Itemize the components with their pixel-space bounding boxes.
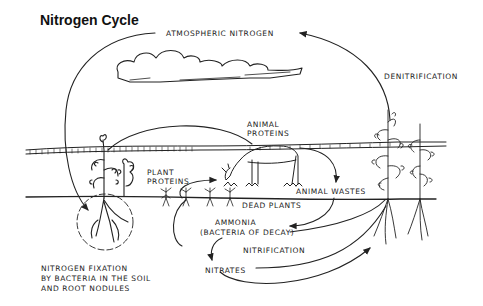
cloud-icon: [117, 51, 302, 83]
label-plant-proteins-line1: PLANT: [147, 168, 174, 177]
label-dead-plants: DEAD PLANTS: [242, 201, 301, 210]
label-plant-proteins-line2: PROTEINS: [147, 177, 189, 186]
label-animal-proteins-line2: PROTEINS: [247, 129, 289, 138]
diagram-artwork: [0, 0, 483, 306]
label-animal-wastes: ANIMAL WASTES: [296, 187, 366, 196]
label-atmospheric-nitrogen: ATMOSPHERIC NITROGEN: [166, 29, 274, 38]
label-nitrification: NITRIFICATION: [243, 246, 305, 255]
nitrogen-cycle-diagram: Nitrogen Cycle: [0, 0, 483, 306]
label-denitrification: DENITRIFICATION: [384, 72, 458, 81]
label-fixation-line3: AND ROOT NODULES: [41, 284, 130, 293]
label-nitrates: NITRATES: [205, 266, 246, 275]
label-fixation-line2: BY BACTERIA IN THE SOIL: [41, 274, 151, 283]
label-ammonia-line2: (BACTERIA OF DECAY): [200, 228, 294, 237]
label-ammonia-line1: AMMONIA: [215, 218, 256, 227]
right-trees-icon: [372, 110, 434, 244]
horizon-band: [26, 142, 446, 154]
ground-line: [26, 196, 436, 199]
label-animal-proteins-line1: ANIMAL: [247, 120, 279, 129]
label-fixation-line1: NITROGEN FIXATION: [41, 264, 128, 273]
horse-icon: [222, 146, 302, 186]
